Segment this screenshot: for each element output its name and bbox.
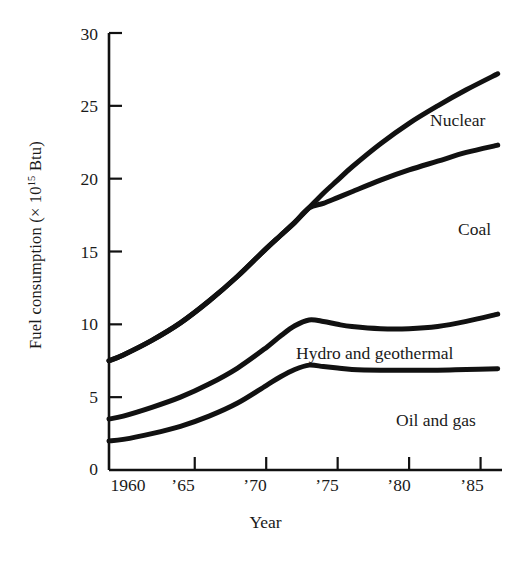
curve-nuclear <box>109 74 498 361</box>
plot-area <box>0 0 531 565</box>
data-curves <box>109 74 498 441</box>
fuel-consumption-chart: Fuel consumption (× 1015 Btu) 30 25 20 1… <box>0 0 531 565</box>
y-axis-ticks <box>109 33 122 397</box>
x-axis-ticks <box>195 457 481 470</box>
